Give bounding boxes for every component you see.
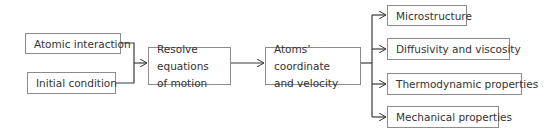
- node-label: Resolve equations of motion: [157, 41, 222, 92]
- node-mechanical-properties: Mechanical properties: [387, 106, 499, 128]
- node-label: Atomic interaction: [34, 36, 131, 52]
- node-initial-condition: Initial condition: [27, 72, 116, 94]
- node-label: Thermodynamic properties: [396, 76, 538, 92]
- node-microstructure: Microstructure: [387, 5, 467, 26]
- node-atomic-interaction: Atomic interaction: [25, 33, 121, 54]
- node-atoms-coordinate: Atoms’ coordinate and velocity: [265, 47, 361, 85]
- node-label: Microstructure: [396, 8, 472, 24]
- node-label: Mechanical properties: [396, 109, 512, 125]
- node-label: Diffusivity and viscosity: [396, 41, 521, 57]
- node-label: Atoms’ coordinate and velocity: [274, 41, 352, 92]
- node-resolve-equations: Resolve equations of motion: [148, 47, 231, 85]
- node-label: Initial condition: [36, 75, 117, 91]
- node-thermodynamic-properties: Thermodynamic properties: [387, 73, 522, 95]
- node-diffusivity-viscosity: Diffusivity and viscosity: [387, 38, 510, 60]
